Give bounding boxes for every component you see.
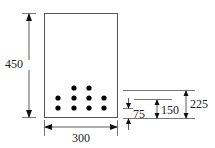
layer-dimensions: 75 150 225 — [123, 91, 208, 131]
height-dimension: 450 — [4, 14, 36, 118]
rebar-group — [55, 85, 106, 110]
rebar — [55, 105, 60, 110]
rebar — [101, 105, 106, 110]
layer-label-75: 75 — [133, 107, 145, 121]
section-outline — [45, 14, 118, 118]
rebar — [86, 95, 91, 100]
layer-label-225: 225 — [190, 97, 208, 111]
rebar — [86, 85, 91, 90]
width-dimension: 300 — [45, 120, 118, 145]
layer-label-150: 150 — [161, 103, 179, 117]
rebar — [101, 95, 106, 100]
rebar — [71, 105, 76, 110]
rebar — [71, 85, 76, 90]
rebar — [71, 95, 76, 100]
beam-section-diagram: 450 300 75 — [0, 0, 215, 148]
height-label: 450 — [5, 57, 23, 71]
width-label: 300 — [72, 131, 90, 145]
rebar — [55, 95, 60, 100]
rebar — [86, 105, 91, 110]
